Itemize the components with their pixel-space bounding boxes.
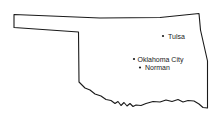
oklahoma-map: Tulsa Oklahoma City Norman xyxy=(0,0,221,120)
city-oklahoma-city: Oklahoma City xyxy=(133,56,184,64)
city-dot xyxy=(133,58,135,60)
city-dot xyxy=(162,35,164,37)
city-label: Oklahoma City xyxy=(138,56,184,64)
city-label: Tulsa xyxy=(168,33,185,40)
city-label: Norman xyxy=(145,64,170,71)
city-tulsa: Tulsa xyxy=(162,33,185,40)
city-norman: Norman xyxy=(139,64,170,71)
city-dot xyxy=(139,66,141,68)
